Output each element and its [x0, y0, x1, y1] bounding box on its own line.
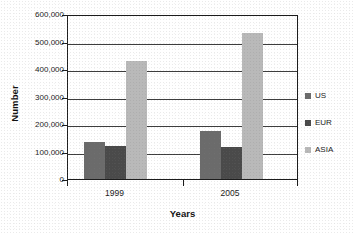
- bar-asia-1999[interactable]: [126, 61, 147, 179]
- y-axis-tick-label: 400,000: [18, 66, 64, 74]
- bar-group-1999: [84, 16, 147, 179]
- legend-label: ASIA: [315, 145, 333, 154]
- y-axis-tick-label: 100,000: [18, 149, 64, 157]
- x-axis-category-label: 2005: [221, 188, 240, 198]
- legend-label: US: [315, 91, 326, 100]
- y-axis-tick-label: 300,000: [18, 94, 64, 102]
- bar-us-1999[interactable]: [84, 142, 105, 179]
- legend-item-asia[interactable]: ASIA: [305, 144, 351, 155]
- x-axis-tick: [67, 180, 68, 186]
- x-axis-ticks: [67, 180, 298, 186]
- y-axis-tick-labels: 0100,000200,000300,000400,000500,000600,…: [18, 11, 64, 184]
- y-axis-tick-label: 500,000: [18, 39, 64, 47]
- bar-eur-2005[interactable]: [221, 147, 242, 179]
- x-axis-tick: [297, 180, 298, 186]
- bar-eur-1999[interactable]: [105, 146, 126, 179]
- x-axis-category-labels: 19992005: [67, 188, 298, 200]
- plot-area: [67, 15, 298, 180]
- legend-swatch-icon: [305, 120, 311, 126]
- y-axis-tick-label: 0: [18, 176, 64, 184]
- bars-layer: [68, 16, 297, 179]
- x-axis-title: Years: [67, 208, 298, 219]
- legend-item-us[interactable]: US: [305, 90, 351, 101]
- y-axis-tick-label: 200,000: [18, 121, 64, 129]
- bar-asia-2005[interactable]: [242, 33, 263, 179]
- legend-label: EUR: [315, 118, 332, 127]
- bar-chart: Number 0100,000200,000300,000400,000500,…: [0, 0, 353, 233]
- bar-group-2005: [200, 16, 263, 179]
- legend-swatch-icon: [305, 93, 311, 99]
- y-axis-tick-label: 600,000: [18, 11, 64, 19]
- chart-legend: USEURASIA: [305, 90, 351, 171]
- legend-item-eur[interactable]: EUR: [305, 117, 351, 128]
- bar-us-2005[interactable]: [200, 131, 221, 179]
- x-axis-tick: [183, 180, 184, 186]
- x-axis-category-label: 1999: [105, 188, 124, 198]
- legend-swatch-icon: [305, 147, 311, 153]
